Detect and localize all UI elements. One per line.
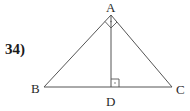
vertex-label-c: C	[176, 82, 185, 97]
vertex-label-d: D	[106, 94, 115, 109]
side-ac	[111, 15, 172, 87]
side-ab	[44, 15, 111, 87]
right-angle-dot-d	[114, 82, 115, 83]
vertex-label-a: A	[106, 0, 116, 15]
triangle-diagram: 34) A B C D	[0, 0, 190, 111]
vertex-label-b: B	[31, 81, 40, 96]
problem-number: 34)	[5, 41, 25, 58]
right-angle-dot-a	[110, 21, 111, 22]
